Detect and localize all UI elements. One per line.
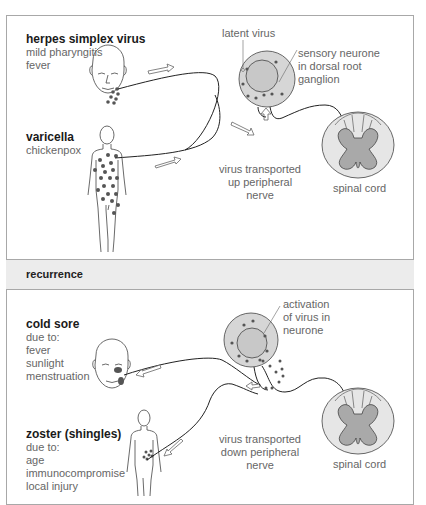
body-icon <box>127 410 161 496</box>
spinal-cord-top <box>322 112 394 178</box>
cold-sore-line: menstruation <box>26 370 90 383</box>
released-virus-dots <box>262 360 285 390</box>
varicella-label: varicella chickenpox <box>26 130 81 157</box>
cold-sore-label: cold sore due to: fever sunlight menstru… <box>26 317 90 383</box>
arrow-up-icon <box>261 108 271 120</box>
arrow-icon <box>136 365 161 377</box>
transport-up-label: virus transported up peripheral nerve <box>210 163 310 202</box>
activation-label: activation of virus in neurone <box>283 298 330 337</box>
arrow-icon <box>148 64 174 74</box>
zoster-line: due to: <box>26 441 125 454</box>
neurone-label-line: in dorsal root <box>298 60 380 73</box>
body-icon <box>88 126 126 252</box>
neurone-cell <box>239 51 295 107</box>
arrow-icon <box>231 122 254 135</box>
neurone-label-line: sensory neurone <box>298 47 380 60</box>
varicella-title: varicella <box>26 130 81 144</box>
spinal-cord-label: spinal cord <box>333 458 386 471</box>
activation-line: of virus in <box>283 311 330 324</box>
arrow-icon <box>164 439 183 456</box>
transport-line: up peripheral <box>210 176 310 189</box>
hsv-line: mild pharyngitis <box>26 46 145 59</box>
transport-line: down peripheral <box>210 446 310 459</box>
arrow-icon <box>155 157 181 168</box>
activation-line: activation <box>283 298 330 311</box>
cold-sore-line: due to: <box>26 331 90 344</box>
transport-down-label: virus transported down peripheral nerve <box>210 433 310 472</box>
zoster-line: local injury <box>26 480 125 493</box>
cold-sore-title: cold sore <box>26 317 90 331</box>
hsv-line: fever <box>26 59 145 72</box>
varicella-line: chickenpox <box>26 144 81 157</box>
zoster-label: zoster (shingles) due to: age immunocomp… <box>26 427 125 493</box>
spinal-cord-label: spinal cord <box>333 182 386 195</box>
transport-line: virus transported <box>210 433 310 446</box>
zoster-line: immunocompromise <box>26 467 125 480</box>
zoster-line: age <box>26 454 125 467</box>
neurone-label: sensory neurone in dorsal root ganglion <box>298 47 380 86</box>
transport-line: nerve <box>210 459 310 472</box>
transport-line: nerve <box>210 189 310 202</box>
transport-line: virus transported <box>210 163 310 176</box>
hsv-label: herpes simplex virus mild pharyngitis fe… <box>26 32 145 72</box>
cold-sore-line: sunlight <box>26 357 90 370</box>
hsv-title: herpes simplex virus <box>26 32 145 46</box>
cold-sore-line: fever <box>26 344 90 357</box>
face-icon <box>93 339 131 388</box>
neurone-label-line: ganglion <box>298 73 380 86</box>
zoster-title: zoster (shingles) <box>26 427 125 441</box>
activation-line: neurone <box>283 324 330 337</box>
arrow-icon <box>246 382 260 390</box>
latent-virus-label: latent virus <box>222 27 275 40</box>
spinal-cord-bottom <box>322 388 394 454</box>
neurone-cell <box>224 313 278 367</box>
